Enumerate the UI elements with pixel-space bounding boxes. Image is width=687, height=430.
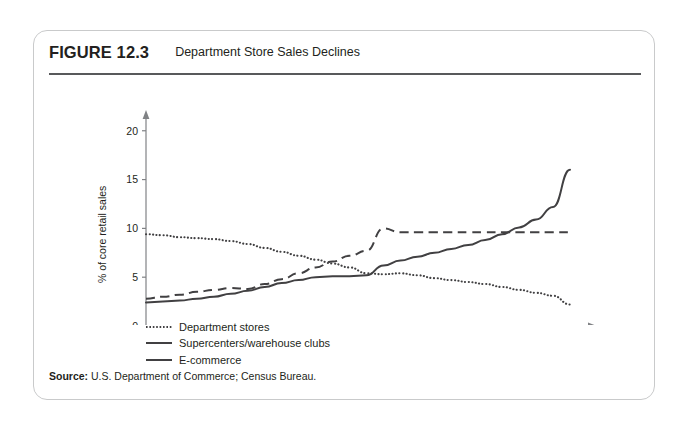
legend-swatch-dotted bbox=[146, 322, 172, 332]
chart-plot-area: 05101520199520002005201020152020% of cor… bbox=[34, 75, 656, 325]
y-axis-tick-label: 10 bbox=[126, 222, 138, 234]
line-chart: 05101520199520002005201020152020% of cor… bbox=[34, 75, 656, 325]
series-line-solid bbox=[146, 170, 570, 303]
source-note: Source: U.S. Department of Commerce; Cen… bbox=[49, 370, 316, 382]
y-axis-arrow bbox=[143, 110, 150, 119]
legend-label: Supercenters/warehouse clubs bbox=[179, 337, 330, 349]
figure-title: Department Store Sales Declines bbox=[175, 45, 360, 59]
legend-item: E-commerce bbox=[146, 352, 566, 367]
legend-swatch-solid bbox=[146, 355, 172, 365]
legend-label: Department stores bbox=[179, 321, 269, 333]
source-label: Source: bbox=[49, 370, 88, 382]
legend-label: E-commerce bbox=[179, 354, 241, 366]
y-axis-tick-label: 5 bbox=[132, 271, 138, 283]
y-axis-tick-label: 15 bbox=[126, 173, 138, 185]
x-axis-arrow bbox=[588, 323, 597, 325]
figure-number: FIGURE 12.3 bbox=[49, 43, 149, 62]
legend-item: Supercenters/warehouse clubs bbox=[146, 336, 566, 351]
y-axis-tick-label: 20 bbox=[126, 125, 138, 137]
source-text: U.S. Department of Commerce; Census Bure… bbox=[91, 370, 316, 382]
figure-header: FIGURE 12.3 Department Store Sales Decli… bbox=[34, 31, 654, 73]
series-line-dotted bbox=[146, 234, 570, 304]
legend-swatch-dashed bbox=[146, 338, 172, 348]
legend-item: Department stores bbox=[146, 319, 566, 334]
y-axis-title: % of core retail sales bbox=[96, 186, 108, 283]
y-axis-tick-label: 0 bbox=[132, 320, 138, 325]
figure-card: FIGURE 12.3 Department Store Sales Decli… bbox=[33, 30, 655, 400]
chart-legend: Department storesSupercenters/warehouse … bbox=[146, 319, 566, 369]
